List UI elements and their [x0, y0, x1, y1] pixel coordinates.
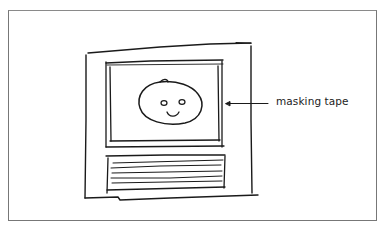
masking-tape-arrow: [226, 102, 268, 106]
sketch-canvas: [0, 0, 385, 228]
left-eye: [161, 101, 167, 106]
mouth: [167, 112, 179, 116]
masking-tape-label: masking tape: [276, 95, 349, 107]
right-eye: [179, 100, 185, 105]
screen-frame: [106, 60, 224, 147]
smiley-face: [139, 79, 202, 124]
slat-panel: [106, 155, 225, 193]
